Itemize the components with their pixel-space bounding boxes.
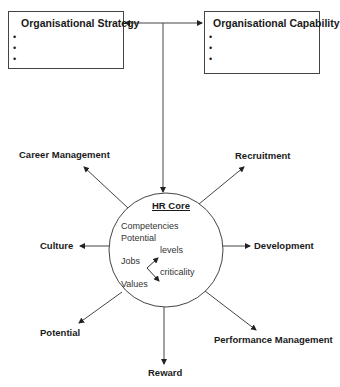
- career-management-label: Career Management: [19, 149, 110, 160]
- bullet-point: •: [13, 32, 16, 43]
- bullet-point: •: [13, 43, 16, 54]
- core-item-competencies: Competencies: [121, 221, 179, 231]
- core-item-criticality: criticality: [160, 267, 195, 277]
- organisational-strategy-title: Organisational Strategy: [21, 17, 139, 29]
- development-label: Development: [254, 240, 314, 251]
- core-item-levels: levels: [160, 245, 183, 255]
- bullet-point: •: [209, 43, 212, 54]
- culture-label: Culture: [40, 240, 73, 251]
- core-item-values: Values: [121, 279, 148, 289]
- reward-label: Reward: [148, 367, 182, 378]
- potential-label: Potential: [40, 327, 80, 338]
- bullet-point: •: [209, 32, 212, 43]
- bullet-point: •: [13, 54, 16, 65]
- recruitment-label: Recruitment: [235, 150, 290, 161]
- organisational-capability-title: Organisational Capability: [213, 17, 340, 29]
- hr-core-title: HR Core: [152, 200, 190, 211]
- capability-bullet-list: • • •: [209, 32, 212, 65]
- organisational-strategy-box: Organisational Strategy • • •: [8, 11, 124, 69]
- strategy-bullet-list: • • •: [13, 32, 16, 65]
- core-item-jobs: Jobs: [121, 256, 140, 266]
- organisational-capability-box: Organisational Capability • • •: [204, 11, 320, 74]
- bullet-point: •: [209, 54, 212, 65]
- core-item-potential: Potential: [121, 233, 156, 243]
- performance-management-label: Performance Management: [214, 334, 333, 345]
